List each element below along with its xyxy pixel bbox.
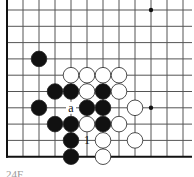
black-stone [79, 100, 95, 116]
white-stone [95, 149, 111, 165]
white-stone [127, 100, 143, 116]
star-point-icon [149, 106, 153, 110]
white-stone [127, 133, 143, 149]
black-stone [31, 51, 47, 67]
white-stone [111, 84, 127, 100]
white-stone [95, 133, 111, 149]
white-stone [111, 116, 127, 132]
black-stone [47, 84, 63, 100]
white-stone [95, 67, 111, 83]
white-stone [111, 67, 127, 83]
black-stone [95, 84, 111, 100]
black-stone [95, 100, 111, 116]
white-stone [79, 116, 95, 132]
move-label: 1 [84, 133, 90, 147]
black-stone [63, 133, 79, 149]
black-stone [95, 116, 111, 132]
white-stone [79, 84, 95, 100]
black-stone [63, 84, 79, 100]
black-stone [63, 149, 79, 165]
go-board: a1 [0, 0, 194, 168]
black-stone [63, 116, 79, 132]
black-stone [47, 116, 63, 132]
white-stone [79, 67, 95, 83]
black-stone [31, 100, 47, 116]
diagram-caption: 24F [6, 168, 23, 177]
move-label: a [68, 101, 74, 115]
star-point-icon [149, 8, 153, 12]
white-stone [63, 67, 79, 83]
